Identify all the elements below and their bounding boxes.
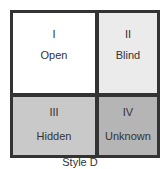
quadrant-label: Blind [116, 48, 140, 62]
quadrant-label: Unknown [105, 129, 151, 143]
quadrant-numeral: III [49, 105, 58, 119]
quadrant-open: I Open [13, 13, 95, 93]
quadrant-label: Hidden [37, 129, 72, 143]
johari-window-grid: I Open II Blind III Hidden IV Unknown [10, 10, 160, 158]
quadrant-hidden: III Hidden [13, 97, 95, 155]
quadrant-numeral: I [52, 27, 55, 41]
quadrant-numeral: IV [123, 105, 133, 119]
quadrant-blind: II Blind [99, 13, 157, 93]
quadrant-unknown: IV Unknown [99, 97, 157, 155]
quadrant-label: Open [41, 48, 68, 62]
figure-caption: Style D [0, 156, 160, 168]
quadrant-numeral: II [125, 27, 131, 41]
